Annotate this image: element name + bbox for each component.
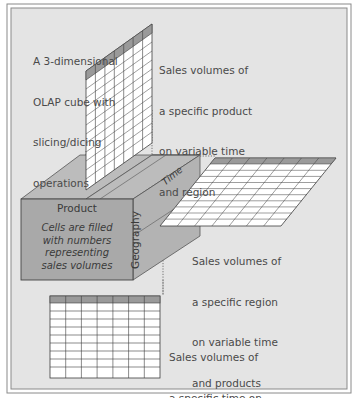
caption-line: a specific region <box>192 296 281 310</box>
time-slice-grid <box>50 296 160 378</box>
cube-front-description: Cells are filled with numbers representi… <box>21 222 133 272</box>
cube-description-line: A 3-dimensional <box>33 55 118 69</box>
caption-line: and region <box>159 186 252 200</box>
caption-line: a specific product <box>159 105 252 119</box>
product-axis-label: Product <box>21 202 133 214</box>
front-description-line: representing <box>21 247 133 260</box>
front-description-line: Cells are filled <box>21 222 133 235</box>
cube-description-line: slicing/dicing <box>33 136 118 150</box>
front-description-line: sales volumes <box>21 260 133 273</box>
caption-line: on variable time <box>159 145 252 159</box>
geography-axis-label: Geography <box>129 200 141 280</box>
cube-description-line: operations <box>33 177 118 191</box>
caption-line: Sales volumes of <box>169 351 262 365</box>
caption-line: Sales volumes of <box>192 255 281 269</box>
cube-description: A 3-dimensional OLAP cube with slicing/d… <box>33 28 118 204</box>
time-slice-caption: Sales volumes of a specific time on vari… <box>169 324 262 398</box>
olap-cube-diagram: A 3-dimensional OLAP cube with slicing/d… <box>0 0 357 398</box>
product-slice-caption: Sales volumes of a specific product on v… <box>159 37 252 213</box>
cube-description-line: OLAP cube with <box>33 96 118 110</box>
caption-line: Sales volumes of <box>159 64 252 78</box>
front-description-line: with numbers <box>21 235 133 248</box>
caption-line: a specific time on <box>169 392 262 398</box>
